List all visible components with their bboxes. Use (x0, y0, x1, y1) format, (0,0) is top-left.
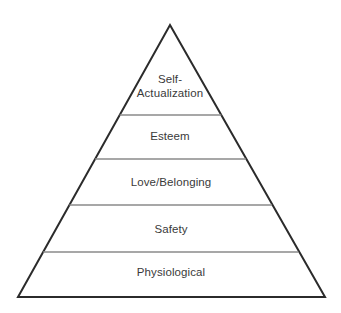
pyramid-shape (0, 0, 341, 313)
pyramid-diagram: Self- Actualization Esteem Love/Belongin… (0, 0, 341, 313)
pyramid-outline (18, 25, 325, 297)
